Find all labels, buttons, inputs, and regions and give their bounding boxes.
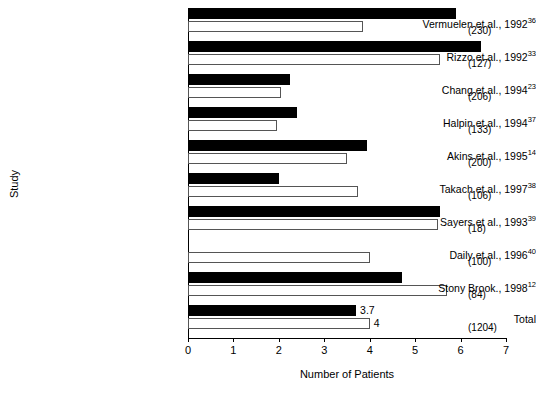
- patient-count-2: (206): [468, 91, 530, 102]
- x-tick-2: [279, 338, 280, 342]
- patient-count-7: (100): [468, 256, 530, 267]
- x-tick-label-4: 4: [358, 344, 382, 356]
- y-axis-title: Study: [8, 154, 20, 214]
- bar-white-9: [188, 318, 370, 329]
- bar-black-4: [188, 140, 367, 151]
- x-axis-line: [188, 338, 506, 339]
- bar-white-4: [188, 153, 347, 164]
- patient-count-6: (18): [468, 223, 530, 234]
- bar-white-7: [188, 252, 370, 263]
- x-tick-6: [461, 338, 462, 342]
- x-tick-label-7: 7: [494, 344, 518, 356]
- bar-black-2: [188, 74, 290, 85]
- patient-count-1: (127): [468, 58, 530, 69]
- x-tick-5: [415, 338, 416, 342]
- patient-count-3: (133): [468, 124, 530, 135]
- x-tick-7: [506, 338, 507, 342]
- x-tick-label-5: 5: [403, 344, 427, 356]
- bar-white-0: [188, 21, 363, 32]
- x-tick-label-1: 1: [221, 344, 245, 356]
- x-tick-label-6: 6: [449, 344, 473, 356]
- value-label-black-9: 3.7: [360, 304, 375, 316]
- x-tick-3: [324, 338, 325, 342]
- patient-count-5: (106): [468, 190, 530, 201]
- x-tick-label-2: 2: [267, 344, 291, 356]
- x-tick-1: [233, 338, 234, 342]
- x-tick-4: [370, 338, 371, 342]
- x-axis-title: Number of Patients: [188, 368, 506, 380]
- x-tick-label-3: 3: [312, 344, 336, 356]
- patient-count-9: (1204): [468, 322, 530, 333]
- patient-count-4: (200): [468, 157, 530, 168]
- bar-black-9: [188, 305, 356, 316]
- patient-count-0: (230): [468, 25, 530, 36]
- bar-black-3: [188, 107, 297, 118]
- bar-white-3: [188, 120, 277, 131]
- bar-white-5: [188, 186, 358, 197]
- value-label-white-9: 4: [374, 317, 380, 329]
- x-tick-0: [188, 338, 189, 342]
- x-tick-label-0: 0: [176, 344, 200, 356]
- bar-black-5: [188, 173, 279, 184]
- bar-chart: Study Vermuelen et al., 199236Rizzo et a…: [0, 0, 536, 395]
- bar-white-2: [188, 87, 281, 98]
- patient-count-8: (84): [468, 289, 530, 300]
